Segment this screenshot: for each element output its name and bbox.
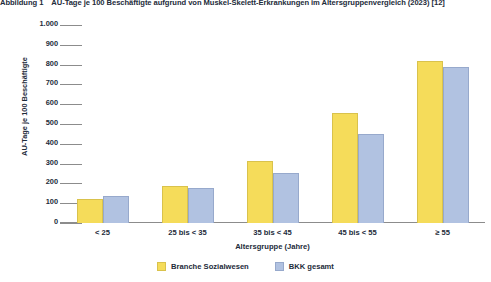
x-axis-tick-label: 35 bis < 45 <box>230 228 315 237</box>
bar-group <box>230 25 315 223</box>
bar[interactable] <box>247 161 273 223</box>
bar-group <box>400 25 485 223</box>
bar[interactable] <box>162 186 188 223</box>
legend-swatch <box>275 262 284 271</box>
bar[interactable] <box>443 67 469 223</box>
x-axis-title: Altersgruppe (Jahre) <box>60 242 485 251</box>
chart-legend: Branche SozialwesenBKK gesamt <box>0 262 491 271</box>
figure-caption-text: AU-Tage je 100 Beschäftigte aufgrund von… <box>51 0 444 7</box>
y-axis-tick-label: 400 <box>18 138 58 147</box>
x-axis-tick-label: ≥ 55 <box>400 228 485 237</box>
y-axis-tick-label: 500 <box>18 118 58 127</box>
figure-caption-label: Abbildung 1 <box>0 0 43 7</box>
y-axis-tick-label: 900 <box>18 39 58 48</box>
y-axis-tick-label: 600 <box>18 98 58 107</box>
legend-label: Branche Sozialwesen <box>171 262 249 271</box>
plot-area: 1.0009008007006005004003002001000 <box>60 25 485 223</box>
bar[interactable] <box>332 113 358 223</box>
y-axis-tick-label: 100 <box>18 197 58 206</box>
y-axis-tick-label: 800 <box>18 59 58 68</box>
x-axis-tick-label: 25 bis < 35 <box>145 228 230 237</box>
bar[interactable] <box>77 199 103 223</box>
bar-group <box>60 25 145 223</box>
y-axis-tick-label: 200 <box>18 177 58 186</box>
bar[interactable] <box>103 196 129 223</box>
legend-item[interactable]: BKK gesamt <box>275 262 334 271</box>
y-axis-tick-label: 0 <box>18 217 58 226</box>
bar-chart: AU-Tage je 100 Beschäftigte 1.0009008007… <box>0 14 491 282</box>
x-axis-tick-labels: < 2525 bis < 3535 bis < 4545 bis < 55≥ 5… <box>60 228 485 237</box>
x-axis-tick-label: 45 bis < 55 <box>315 228 400 237</box>
y-axis-tick-label: 300 <box>18 158 58 167</box>
bar-group <box>145 25 230 223</box>
legend-item[interactable]: Branche Sozialwesen <box>157 262 249 271</box>
x-axis-tick-label: < 25 <box>60 228 145 237</box>
gridline <box>60 223 82 224</box>
bar-group <box>315 25 400 223</box>
legend-swatch <box>157 262 166 271</box>
bar[interactable] <box>188 188 214 223</box>
bar[interactable] <box>273 173 299 223</box>
figure-caption: Abbildung 1 AU-Tage je 100 Beschäftigte … <box>0 0 491 12</box>
bar[interactable] <box>358 134 384 223</box>
legend-label: BKK gesamt <box>289 262 334 271</box>
bar[interactable] <box>417 61 443 223</box>
y-axis-tick-label: 1.000 <box>18 19 58 28</box>
bar-groups <box>60 25 485 223</box>
y-axis-tick-label: 700 <box>18 78 58 87</box>
